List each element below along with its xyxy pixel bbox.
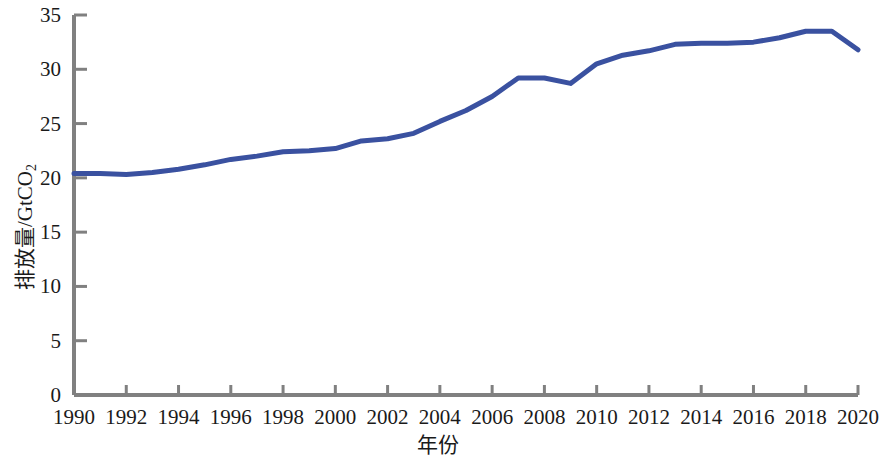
x-tick-label: 1990 bbox=[53, 407, 95, 428]
axes-group bbox=[74, 15, 858, 395]
x-tick-label: 1998 bbox=[262, 407, 304, 428]
y-tick-label: 30 bbox=[0, 59, 61, 80]
x-tick-label: 1994 bbox=[158, 407, 200, 428]
data-line-global-co2 bbox=[74, 31, 858, 174]
x-tick-label: 2010 bbox=[576, 407, 618, 428]
x-tick-label: 2000 bbox=[314, 407, 356, 428]
x-tick-label: 2008 bbox=[523, 407, 565, 428]
x-tick-label: 2012 bbox=[628, 407, 670, 428]
x-axis-title: 年份 bbox=[0, 428, 876, 455]
x-tick-label: 1996 bbox=[210, 407, 252, 428]
y-tick-label: 5 bbox=[0, 330, 61, 351]
series-group bbox=[74, 31, 858, 174]
x-tick-label: 2006 bbox=[471, 407, 513, 428]
x-tick-label: 2016 bbox=[732, 407, 774, 428]
x-tick-label: 2002 bbox=[367, 407, 409, 428]
y-axis-title-text: 排放量/GtCO bbox=[13, 171, 37, 290]
y-tick-label: 25 bbox=[0, 113, 61, 134]
y-tick-label: 0 bbox=[0, 385, 61, 406]
x-tick-label: 2004 bbox=[419, 407, 461, 428]
x-tick-label: 2014 bbox=[680, 407, 722, 428]
x-tick-label: 2020 bbox=[837, 407, 879, 428]
y-axis-title: 排放量/GtCO2 bbox=[8, 132, 38, 322]
y-axis-title-subscript: 2 bbox=[24, 164, 39, 171]
y-tick-label: 35 bbox=[0, 5, 61, 26]
x-tick-label: 2018 bbox=[785, 407, 827, 428]
x-tick-label: 1992 bbox=[105, 407, 147, 428]
